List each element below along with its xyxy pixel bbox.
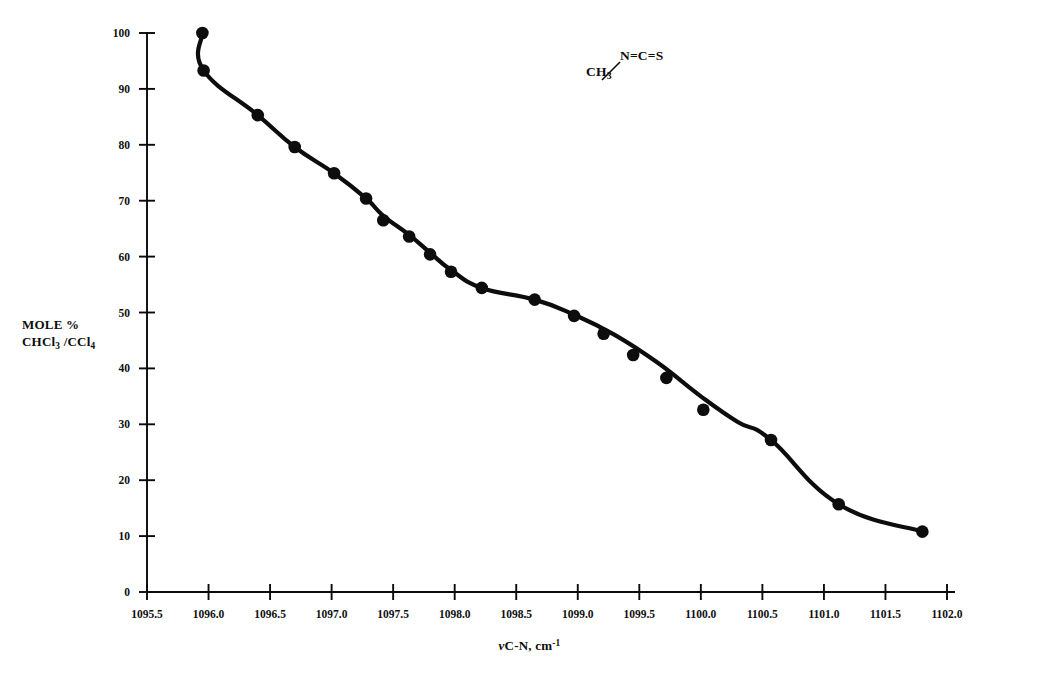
y-axis-title-ccl4: /CCl <box>60 334 90 349</box>
y-axis-tick-label: 70 <box>119 195 131 207</box>
data-point <box>288 141 301 154</box>
y-axis-title-chcl3: CHCl <box>22 334 55 349</box>
y-axis-tick-label: 100 <box>113 27 131 39</box>
data-curve <box>198 33 922 532</box>
data-point <box>328 167 341 180</box>
x-axis-tick-label: 1098.0 <box>439 608 471 620</box>
x-axis-title-exponent: -1 <box>552 638 560 648</box>
y-axis-tick-label: 20 <box>119 474 131 486</box>
data-curve-path <box>198 33 922 532</box>
data-point <box>377 214 390 227</box>
y-axis-tick-label: 80 <box>119 139 131 151</box>
data-point <box>360 192 373 205</box>
data-point <box>528 293 541 306</box>
data-point <box>697 403 710 416</box>
data-point <box>251 109 264 122</box>
data-point <box>597 327 610 340</box>
x-axis-tick-label: 1096.5 <box>254 608 286 620</box>
y-axis-tick-label: 0 <box>124 586 130 598</box>
data-point <box>196 27 209 40</box>
x-axis-tick-label: 1097.5 <box>377 608 409 620</box>
data-point <box>445 265 458 278</box>
y-axis-tick-label: 10 <box>119 530 131 542</box>
data-point <box>832 498 845 511</box>
x-axis-tick-label: 1101.5 <box>870 608 901 620</box>
data-point <box>475 282 488 295</box>
data-point <box>916 525 929 538</box>
x-axis: 1095.51096.01096.51097.01097.51098.01098… <box>131 584 963 620</box>
x-axis-tick-label: 1100.0 <box>685 608 716 620</box>
x-axis-tick-label: 1100.5 <box>747 608 778 620</box>
y-axis-tick-label: 90 <box>119 83 131 95</box>
x-axis-tick-label: 1096.0 <box>193 608 225 620</box>
x-axis-title: νC-N, cm-1 <box>0 638 1059 654</box>
x-axis-tick-label: 1098.5 <box>500 608 532 620</box>
molecule-annotation: N=C=S CH3 <box>586 48 663 84</box>
data-point <box>403 230 416 243</box>
y-axis-tick-label: 30 <box>119 418 131 430</box>
y-axis-title: MOLE % CHCl3 /CCl4 <box>22 316 95 355</box>
data-point <box>627 349 640 362</box>
x-axis-tick-label: 1099.5 <box>623 608 655 620</box>
molecule-bond-line <box>598 58 638 84</box>
y-axis-tick-label: 40 <box>119 362 131 374</box>
data-point <box>424 248 437 261</box>
y-axis-tick-label: 60 <box>119 251 131 263</box>
data-points <box>196 27 929 538</box>
x-axis-tick-label: 1097.0 <box>316 608 348 620</box>
y-axis: 0102030405060708090100 <box>113 27 155 598</box>
y-axis-title-line2: CHCl3 /CCl4 <box>22 333 95 355</box>
chart-canvas: 0102030405060708090100 1095.51096.01096.… <box>0 0 1059 684</box>
x-axis-tick-label: 1095.5 <box>131 608 163 620</box>
x-axis-tick-label: 1102.0 <box>932 608 963 620</box>
x-axis-tick-label: 1099.0 <box>562 608 594 620</box>
y-axis-tick-label: 50 <box>119 307 131 319</box>
data-point <box>568 310 581 323</box>
data-point <box>660 372 673 385</box>
data-point <box>765 434 778 447</box>
chart-figure: 0102030405060708090100 1095.51096.01096.… <box>0 0 1059 684</box>
x-axis-tick-label: 1101.0 <box>808 608 839 620</box>
y-axis-title-line1: MOLE % <box>22 316 95 333</box>
y-axis-title-ccl4-sub: 4 <box>90 341 95 351</box>
data-point <box>197 64 210 77</box>
x-axis-title-main: C-N, cm <box>505 638 553 653</box>
